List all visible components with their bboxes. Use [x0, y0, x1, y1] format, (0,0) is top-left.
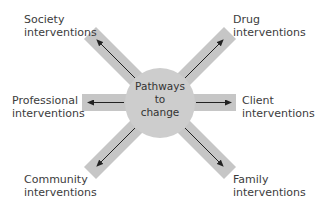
node-professional: Professional interventions [12, 94, 85, 120]
node-professional-line1: Professional [12, 94, 85, 107]
node-society-line1: Society [24, 13, 97, 26]
node-professional-line2: interventions [12, 107, 85, 120]
center-label-line3: change [125, 106, 195, 119]
node-client: Client interventions [242, 94, 315, 120]
center-label-line1: Pathways [125, 80, 195, 93]
center-label: Pathways to change [125, 80, 195, 119]
node-drug-line1: Drug [233, 13, 306, 26]
node-community: Community interventions [24, 173, 97, 199]
node-community-line2: interventions [24, 186, 97, 199]
node-drug-line2: interventions [233, 26, 306, 39]
node-family-line2: interventions [233, 186, 306, 199]
node-family-line1: Family [233, 173, 306, 186]
node-society-line2: interventions [24, 26, 97, 39]
node-client-line1: Client [242, 94, 315, 107]
node-family: Family interventions [233, 173, 306, 199]
node-society: Society interventions [24, 13, 97, 39]
center-label-line2: to [125, 93, 195, 106]
node-community-line1: Community [24, 173, 97, 186]
node-client-line2: interventions [242, 107, 315, 120]
node-drug: Drug interventions [233, 13, 306, 39]
